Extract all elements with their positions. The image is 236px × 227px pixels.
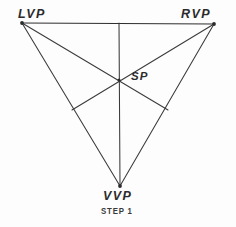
lvp-vertex-dot bbox=[20, 21, 24, 25]
horizon-line bbox=[22, 23, 214, 24]
figure-caption: STEP 1 bbox=[101, 207, 133, 216]
right-leg-line bbox=[120, 24, 214, 186]
vertical-altitude-line bbox=[119, 23, 120, 186]
lvp-label: LVP bbox=[18, 8, 46, 21]
sp-vertex-dot bbox=[118, 79, 121, 82]
vvp-label: VVP bbox=[103, 190, 132, 203]
rvp-label: RVP bbox=[181, 8, 211, 21]
rvp-vertex-dot bbox=[212, 22, 216, 26]
altitude-from-lvp-line bbox=[22, 23, 168, 110]
vvp-vertex-dot bbox=[118, 184, 122, 188]
sp-label: SP bbox=[131, 71, 149, 83]
altitude-from-rvp-line bbox=[72, 24, 214, 110]
perspective-diagram-figure: LVP RVP SP VVP STEP 1 bbox=[0, 0, 236, 227]
left-leg-line bbox=[22, 23, 120, 186]
